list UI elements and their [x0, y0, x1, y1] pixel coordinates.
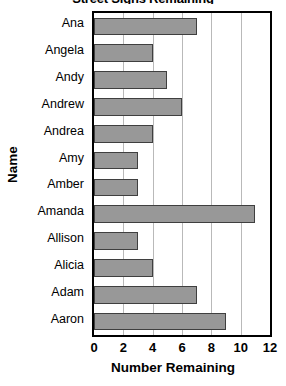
bar-row — [94, 205, 270, 223]
bar — [94, 44, 153, 62]
bar — [94, 152, 138, 170]
y-axis-tick-label: Amy — [59, 152, 84, 165]
y-axis-tick-label: Andy — [56, 71, 85, 84]
bar-chart: Street Signs Remaining AnaAngelaAndyAndr… — [0, 0, 286, 386]
y-axis-tick-label: Andrew — [42, 98, 84, 111]
chart-title: Street Signs Remaining — [0, 0, 286, 4]
bar-row — [94, 259, 270, 277]
y-axis-tick-label: Amanda — [37, 205, 84, 218]
y-axis-tick-label: Aaron — [51, 313, 84, 326]
y-axis-tick-label: Ana — [62, 17, 84, 30]
bar-row — [94, 18, 270, 36]
bar-row — [94, 98, 270, 116]
bar — [94, 125, 153, 143]
y-axis-tick-labels: AnaAngelaAndyAndrewAndreaAmyAmberAmandaA… — [14, 11, 88, 337]
x-axis-tick-label: 2 — [120, 340, 127, 355]
y-axis-tick-label: Allison — [47, 232, 84, 245]
bar — [94, 232, 138, 250]
bar-row — [94, 179, 270, 197]
x-axis-tick-label: 0 — [90, 340, 97, 355]
bars-layer — [94, 13, 270, 335]
y-axis-tick-label: Andrea — [44, 125, 84, 138]
bar — [94, 179, 138, 197]
x-axis-tick-label: 10 — [233, 340, 247, 355]
bar-row — [94, 44, 270, 62]
x-axis-tick-label: 12 — [263, 340, 277, 355]
bar — [94, 71, 167, 89]
bar-row — [94, 286, 270, 304]
y-axis-tick-label: Adam — [51, 286, 84, 299]
plot-area — [92, 11, 272, 337]
bar — [94, 313, 226, 331]
y-axis-title: Name — [5, 135, 20, 195]
y-axis-tick-label: Alicia — [54, 259, 84, 272]
y-axis-tick-label: Angela — [45, 44, 84, 57]
bar — [94, 18, 197, 36]
bar-row — [94, 152, 270, 170]
x-axis-title: Number Remaining — [60, 360, 286, 375]
x-axis-tick-label: 6 — [178, 340, 185, 355]
bar — [94, 205, 255, 223]
bar-row — [94, 313, 270, 331]
x-axis-tick-label: 4 — [149, 340, 156, 355]
bar — [94, 286, 197, 304]
x-axis-tick-labels: 024681012 — [92, 340, 272, 358]
bar-row — [94, 125, 270, 143]
y-axis-tick-label: Amber — [47, 178, 84, 191]
bar — [94, 98, 182, 116]
bar — [94, 259, 153, 277]
bar-row — [94, 232, 270, 250]
bar-row — [94, 71, 270, 89]
x-axis-tick-label: 8 — [208, 340, 215, 355]
